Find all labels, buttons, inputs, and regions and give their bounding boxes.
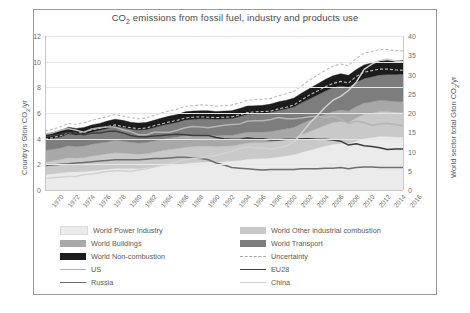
y-tick-left: 0	[37, 187, 41, 194]
axis-right	[403, 36, 404, 190]
legend-swatch-icon	[240, 240, 266, 247]
title-post: emissions from fossil fuel, industry and…	[130, 12, 358, 23]
y-tick-right: 5	[408, 167, 412, 174]
title-pre: CO	[112, 12, 126, 23]
legend-item-world-buildings[interactable]: World Buildings	[60, 239, 240, 248]
chart-title: CO2 emissions from fossil fuel, industry…	[0, 12, 470, 25]
legend-label: Russia	[91, 278, 113, 287]
legend-item-world-power-industry[interactable]: World Power Industry	[60, 226, 240, 235]
legend-swatch-icon	[60, 282, 86, 283]
y-tick-right: 40	[408, 33, 416, 40]
y-axis-label-right: World sector total Gton CO2/yr	[449, 76, 460, 178]
legend-item-world-other-industrial-combustion[interactable]: World Other industrial combustion	[240, 226, 420, 235]
legend-item-us[interactable]: US	[60, 265, 240, 274]
legend-swatch-icon	[60, 226, 88, 235]
legend-item-uncertainty[interactable]: Uncertainty	[240, 252, 420, 261]
plot-area: 0246810120510152025303540197019721974197…	[45, 36, 403, 190]
legend-item-eu28[interactable]: EU28	[240, 265, 420, 274]
legend-label: World Other industrial combustion	[271, 226, 381, 235]
y-tick-right: 30	[408, 71, 416, 78]
y-tick-left: 4	[37, 135, 41, 142]
legend-swatch-icon	[60, 240, 86, 247]
legend-row: RussiaChina	[60, 276, 420, 289]
y-tick-right: 15	[408, 129, 416, 136]
legend-label: World Buildings	[91, 239, 142, 248]
y-tick-left: 2	[37, 161, 41, 168]
legend-swatch-icon	[60, 253, 86, 260]
y-tick-left: 8	[37, 84, 41, 91]
legend-swatch-icon	[240, 227, 266, 234]
axis-bottom	[45, 190, 403, 191]
legend-swatch-icon	[240, 282, 266, 283]
legend-row: World Power IndustryWorld Other industri…	[60, 224, 420, 237]
legend-label: Uncertainty	[271, 252, 308, 261]
legend-swatch-icon	[240, 256, 266, 257]
y-tick-right: 0	[408, 187, 412, 194]
y-tick-right: 20	[408, 110, 416, 117]
y-tick-right: 35	[408, 52, 416, 59]
legend-swatch-icon	[60, 269, 86, 270]
y-tick-left: 6	[37, 110, 41, 117]
legend-swatch-icon	[240, 269, 266, 270]
legend-item-world-transport[interactable]: World Transport	[240, 239, 420, 248]
legend-label: US	[91, 265, 101, 274]
y-tick-left: 10	[33, 58, 41, 65]
axis-left	[45, 36, 46, 190]
legend-row: World BuildingsWorld Transport	[60, 237, 420, 250]
legend-item-world-non-combustion[interactable]: World Non-combustion	[60, 252, 240, 261]
chart-legend: World Power IndustryWorld Other industri…	[60, 224, 420, 289]
y-tick-right: 10	[408, 148, 416, 155]
y-tick-right: 25	[408, 90, 416, 97]
legend-item-russia[interactable]: Russia	[60, 278, 240, 287]
legend-row: USEU28	[60, 263, 420, 276]
gridline	[45, 87, 403, 88]
y-axis-label-left: Country's Gton CO2/yr	[20, 100, 31, 175]
legend-item-china[interactable]: China	[240, 278, 420, 287]
legend-label: World Power Industry	[93, 226, 163, 235]
gridline	[45, 62, 403, 63]
y-tick-left: 12	[33, 33, 41, 40]
legend-row: World Non-combustionUncertainty	[60, 250, 420, 263]
gridline	[45, 36, 403, 37]
legend-label: China	[271, 278, 290, 287]
legend-label: World Non-combustion	[91, 252, 165, 261]
gridline	[45, 164, 403, 165]
gridline	[45, 113, 403, 114]
legend-label: World Transport	[271, 239, 323, 248]
gridline	[45, 139, 403, 140]
legend-label: EU28	[271, 265, 289, 274]
